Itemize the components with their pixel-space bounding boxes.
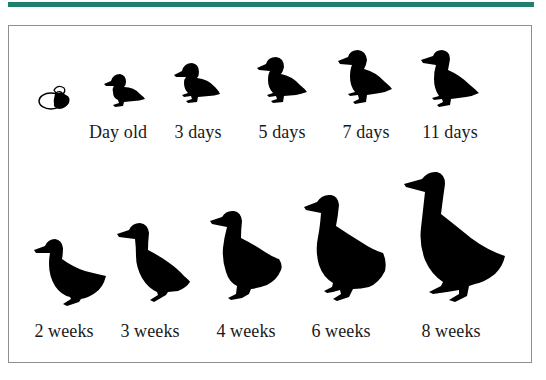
- stage-label-6-weeks: 6 weeks: [311, 321, 370, 342]
- duckling-3-days-silhouette: [173, 62, 221, 106]
- duck-4-weeks-silhouette: [209, 210, 283, 304]
- stage-label-11-days: 11 days: [422, 122, 478, 143]
- stage-label-3-weeks: 3 weeks: [120, 321, 179, 342]
- stage-label-3-days: 3 days: [174, 122, 221, 143]
- stage-label-2-weeks: 2 weeks: [34, 321, 93, 342]
- stage-label-day-old: Day old: [89, 122, 147, 143]
- stage-label-8-weeks: 8 weeks: [421, 321, 480, 342]
- stage-label-5-days: 5 days: [258, 122, 305, 143]
- stage-label-7-days: 7 days: [342, 122, 389, 143]
- duckling-5-days-silhouette: [256, 56, 308, 106]
- duckling-11-days-silhouette: [420, 49, 480, 109]
- hatching-egg-icon: [36, 82, 76, 114]
- header-accent-bar: [8, 2, 534, 7]
- duck-8-weeks-silhouette: [403, 170, 507, 310]
- duckling-day-old-silhouette: [102, 72, 146, 110]
- duckling-3-weeks-silhouette: [116, 222, 192, 308]
- duckling-2-weeks-silhouette: [33, 238, 107, 308]
- stage-label-4-weeks: 4 weeks: [216, 321, 275, 342]
- duckling-7-days-silhouette: [337, 49, 393, 107]
- duck-6-weeks-silhouette: [303, 193, 387, 307]
